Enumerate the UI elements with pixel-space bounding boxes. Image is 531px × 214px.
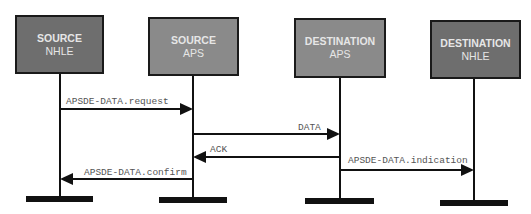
participant-subtitle: APS — [183, 47, 204, 60]
message-label-indication: APSDE-DATA.indication — [348, 155, 468, 166]
message-label-confirm: APSDE-DATA.confirm — [84, 167, 187, 178]
message-arrow-indication — [340, 169, 461, 171]
lifeline-destination-nhle — [473, 79, 475, 201]
lifeline-end-bar — [159, 197, 227, 203]
arrowhead-left-icon — [60, 173, 73, 185]
participant-subtitle: NHLE — [45, 45, 73, 58]
lifeline-end-bar — [26, 196, 93, 202]
participant-title: DESTINATION — [440, 37, 510, 50]
message-arrow-request — [60, 108, 180, 110]
participant-subtitle: NHLE — [461, 50, 489, 63]
arrowhead-right-icon — [180, 103, 193, 115]
participant-title: DESTINATION — [305, 35, 375, 48]
arrowhead-left-icon — [193, 151, 206, 163]
lifeline-end-bar — [305, 198, 374, 204]
message-label-data: DATA — [298, 122, 321, 133]
participant-source-nhle: SOURCE NHLE — [15, 15, 104, 74]
participant-title: SOURCE — [37, 32, 82, 45]
lifeline-end-bar — [440, 200, 508, 206]
message-label-request: APSDE-DATA.request — [66, 96, 169, 107]
participant-destination-aps: DESTINATION APS — [294, 18, 386, 78]
message-arrow-data — [193, 133, 327, 135]
arrowhead-right-icon — [461, 164, 474, 176]
participant-title: SOURCE — [171, 34, 216, 47]
message-label-ack: ACK — [210, 144, 227, 155]
participant-subtitle: APS — [329, 48, 350, 61]
message-arrow-ack — [206, 156, 340, 158]
participant-destination-nhle: DESTINATION NHLE — [430, 20, 521, 79]
arrowhead-right-icon — [327, 128, 340, 140]
participant-source-aps: SOURCE APS — [148, 17, 239, 76]
message-arrow-confirm — [73, 178, 193, 180]
